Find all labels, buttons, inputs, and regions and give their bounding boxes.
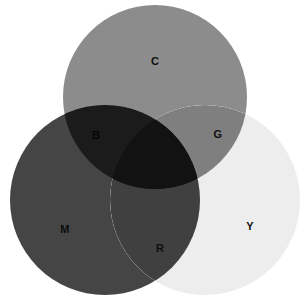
venn-label-magenta: M [60, 224, 69, 235]
venn-label-green: G [214, 129, 223, 140]
venn-svg [0, 0, 308, 304]
venn-label-yellow: Y [246, 221, 254, 232]
venn-diagram-canvas: C M Y B G R [0, 0, 308, 304]
venn-label-red: R [156, 243, 164, 254]
venn-label-blue: B [92, 130, 100, 141]
venn-label-cyan: C [151, 56, 159, 67]
